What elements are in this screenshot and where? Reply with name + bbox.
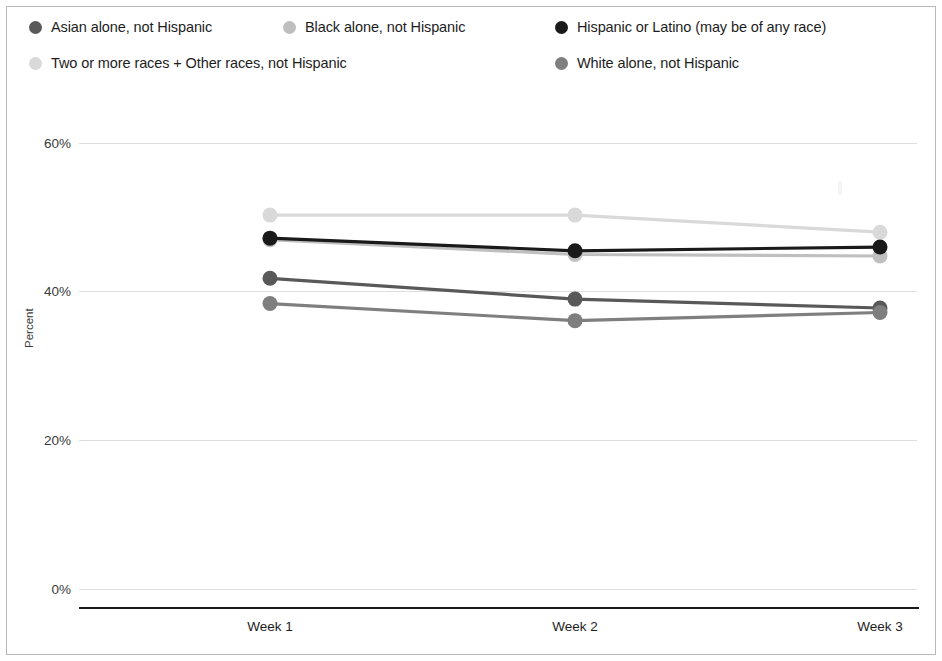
x-axis-tick-label: Week 1 [247,619,293,634]
series-point[interactable] [873,225,888,240]
legend-item-label: Asian alone, not Hispanic [51,19,212,35]
legend-item-hispanic[interactable]: Hispanic or Latino (may be of any race) [555,19,826,35]
legend-dot-icon [29,57,42,70]
x-axis-tick-label: Week 2 [552,619,598,634]
chart-frame: Asian alone, not Hispanic Black alone, n… [6,6,936,655]
y-axis-tick-label: 0% [11,582,71,597]
legend-dot-icon [555,57,568,70]
y-axis-tick-label: 60% [11,136,71,151]
plot-region: Percent 60% 40% 20% 0% Week 1 Week 2 Wee… [7,99,937,656]
legend-item-label: Two or more races + Other races, not His… [51,55,347,71]
series-point[interactable] [568,208,583,223]
series-point[interactable] [873,240,888,255]
legend-item-black[interactable]: Black alone, not Hispanic [283,19,465,35]
series-lines [79,135,917,590]
series-point[interactable] [263,208,278,223]
series-point[interactable] [263,231,278,246]
legend-item-label: Black alone, not Hispanic [305,19,465,35]
legend-dot-icon [29,21,42,34]
legend-dot-icon [283,21,296,34]
x-axis-tick-label: Week 3 [857,619,903,634]
legend-item-label: Hispanic or Latino (may be of any race) [577,19,826,35]
y-axis-tick-label: 40% [11,284,71,299]
series-point[interactable] [873,305,888,320]
series-point[interactable] [568,313,583,328]
y-axis-tick-label: 20% [11,433,71,448]
plot-area [79,135,917,590]
legend-item-two-or-more[interactable]: Two or more races + Other races, not His… [29,55,347,71]
chart-legend: Asian alone, not Hispanic Black alone, n… [7,15,937,99]
series-point[interactable] [263,271,278,286]
y-axis-title: Percent [23,308,35,348]
series-point[interactable] [568,243,583,258]
series-point[interactable] [568,292,583,307]
series-point[interactable] [263,296,278,311]
legend-item-label: White alone, not Hispanic [577,55,739,71]
legend-dot-icon [555,21,568,34]
legend-item-white[interactable]: White alone, not Hispanic [555,55,739,71]
x-axis-line [79,607,919,609]
legend-item-asian[interactable]: Asian alone, not Hispanic [29,19,212,35]
